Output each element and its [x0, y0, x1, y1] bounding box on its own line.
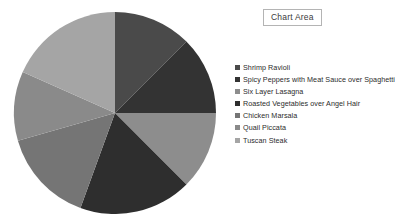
- legend-item-label: Tuscan Steak: [243, 135, 287, 145]
- legend-item-label: Chicken Marsala: [243, 110, 297, 120]
- legend-swatch-icon: [235, 101, 240, 106]
- legend-swatch-icon: [235, 65, 240, 70]
- legend-swatch-icon: [235, 138, 240, 143]
- legend-item[interactable]: Roasted Vegetables over Angel Hair: [235, 98, 395, 110]
- legend-item[interactable]: Quail Piccata: [235, 122, 395, 134]
- legend-swatch-icon: [235, 125, 240, 130]
- legend-swatch-icon: [235, 89, 240, 94]
- legend-item[interactable]: Spicy Peppers with Meat Sauce over Spagh…: [235, 74, 395, 86]
- legend-item[interactable]: Tuscan Steak: [235, 135, 395, 147]
- pie-chart[interactable]: [0, 0, 230, 214]
- chart-canvas: Chart Area Shrimp RavioliSpicy Peppers w…: [0, 0, 395, 214]
- legend-swatch-icon: [235, 77, 240, 82]
- legend-item-label: Six Layer Lasagna: [243, 86, 303, 96]
- pie-chart-svg: [0, 0, 230, 214]
- legend-item[interactable]: Shrimp Ravioli: [235, 62, 395, 74]
- chart-area-label[interactable]: Chart Area: [263, 9, 322, 26]
- chart-legend[interactable]: Shrimp RavioliSpicy Peppers with Meat Sa…: [235, 62, 395, 147]
- pie-slice-group: [14, 12, 216, 214]
- legend-item-label: Roasted Vegetables over Angel Hair: [243, 98, 360, 108]
- legend-item-label: Quail Piccata: [243, 122, 286, 132]
- legend-item[interactable]: Six Layer Lasagna: [235, 86, 395, 98]
- legend-item-label: Shrimp Ravioli: [243, 62, 290, 72]
- legend-item-label: Spicy Peppers with Meat Sauce over Spagh…: [243, 74, 395, 84]
- legend-swatch-icon: [235, 113, 240, 118]
- legend-item[interactable]: Chicken Marsala: [235, 110, 395, 122]
